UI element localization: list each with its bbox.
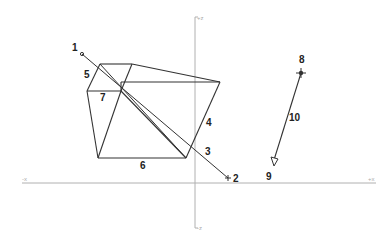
label-9: 9	[266, 171, 272, 182]
label-4: 4	[206, 117, 212, 128]
line-1-2	[82, 54, 228, 178]
x-minus-label: -x	[22, 176, 27, 182]
label-1: 1	[72, 42, 78, 53]
z-plus-label: +z	[197, 15, 204, 21]
edge	[87, 91, 98, 158]
polyhedron	[87, 64, 220, 158]
z-minus-label: -z	[197, 225, 202, 231]
edge	[132, 64, 220, 82]
label-8: 8	[299, 54, 305, 65]
label-2: 2	[233, 173, 239, 184]
x-plus-label: +x	[368, 176, 375, 182]
label-10: 10	[289, 112, 301, 123]
line-1-2-shadow	[100, 64, 186, 158]
edge	[121, 64, 132, 91]
label-7: 7	[100, 92, 106, 103]
arrowhead-icon	[271, 157, 278, 166]
label-3: 3	[205, 146, 211, 157]
labels: 12345678910	[72, 42, 305, 184]
label-5: 5	[84, 69, 90, 80]
diagram-canvas: +z-z-x+x 12345678910	[0, 0, 391, 244]
label-6: 6	[140, 160, 146, 171]
